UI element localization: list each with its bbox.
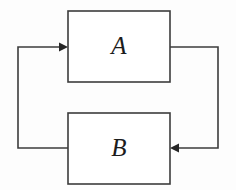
diagram-canvas: A B [0, 0, 236, 190]
forward-path-arrowhead-icon [170, 143, 179, 152]
block-feedback-loop-diagram: A B [0, 0, 236, 190]
forward-path-line [170, 47, 218, 148]
block-b-label: B [111, 134, 126, 161]
feedback-path-line [18, 47, 68, 148]
feedback-path-arrowhead-icon [59, 42, 68, 51]
block-a-label: A [109, 32, 127, 59]
